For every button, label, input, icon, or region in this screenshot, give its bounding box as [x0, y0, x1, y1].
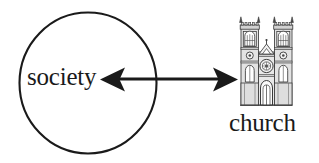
- church-node-label: church: [229, 110, 296, 135]
- society-node-label: society: [27, 64, 96, 89]
- diagram-canvas: society church: [0, 0, 319, 163]
- church-icon: [240, 17, 294, 105]
